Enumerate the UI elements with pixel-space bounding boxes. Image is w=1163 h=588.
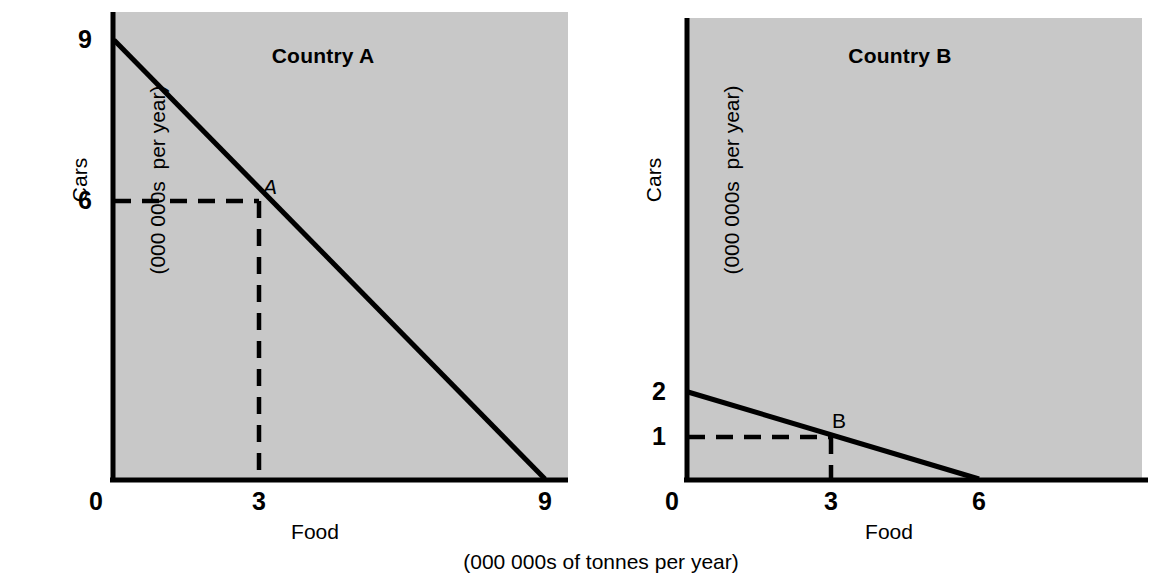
panel-b-xtick-0: 0 <box>655 489 689 514</box>
panel-b-ytick-1: 1 <box>642 424 676 449</box>
panel-b-title: Country B <box>790 45 1010 66</box>
panel-a-xtick-3: 3 <box>242 489 276 514</box>
panel-a-ytick-6: 6 <box>68 188 102 213</box>
panel-a-ytick-9: 9 <box>68 27 102 52</box>
panel-b-y-axis-label: Cars (000 000s per year) <box>588 60 798 300</box>
panel-a-y-axis-label-line2: (000 000s per year) <box>145 60 171 300</box>
ppf-comparison-figure: Country A Cars (000 000s per year) 9 6 0… <box>0 0 1163 588</box>
panel-a-y-axis-label: Cars (000 000s per year) <box>14 60 224 300</box>
panel-b-xtick-6: 6 <box>962 489 996 514</box>
panel-b-xtick-3: 3 <box>814 489 848 514</box>
panel-b-ytick-2: 2 <box>642 379 676 404</box>
panel-a-point-label-a: A <box>263 176 277 197</box>
figure-bottom-caption: (000 000s of tonnes per year) <box>431 551 771 572</box>
panel-a-y-axis-label-line1: Cars <box>67 60 93 300</box>
panel-b-x-axis-label: Food <box>829 521 949 542</box>
panel-b-point-label-b: B <box>832 410 846 431</box>
panel-b-y-axis-label-line2: (000 000s per year) <box>719 60 745 300</box>
panel-a-title: Country A <box>213 45 433 66</box>
panel-a-xtick-0: 0 <box>79 489 113 514</box>
panel-b-y-axis-label-line1: Cars <box>641 60 667 300</box>
panel-a-xtick-9: 9 <box>528 489 562 514</box>
panel-a-x-axis-label: Food <box>255 521 375 542</box>
